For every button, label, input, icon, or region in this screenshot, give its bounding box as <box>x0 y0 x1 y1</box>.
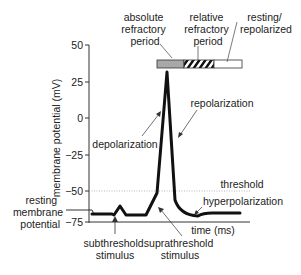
suprathreshold-pointer <box>161 210 182 236</box>
depolarization-label: depolarization <box>92 138 158 150</box>
resting-membrane-potential-label: resting membrane potential <box>13 194 66 230</box>
resting-repolarized-label: resting/ repolarized <box>240 11 292 35</box>
y-tick-minus75: −75 <box>65 216 83 228</box>
absolute-refractory-pointer <box>160 44 172 58</box>
depolarization-pointer <box>142 114 159 136</box>
y-tick-25: 25 <box>71 76 83 88</box>
y-axis: 50 25 0 −25 −50 −75 <box>65 39 89 228</box>
absolute-refractory-segment <box>157 60 184 68</box>
repolarization-pointer <box>180 110 197 135</box>
action-potential-diagram: absolute refractory period relative refr… <box>0 0 301 275</box>
y-tick-0: 0 <box>77 112 83 124</box>
y-tick-minus50: −50 <box>65 185 83 197</box>
relative-refractory-segment <box>184 60 214 68</box>
repolarization-label: repolarization <box>190 97 253 109</box>
y-tick-minus25: −25 <box>65 149 83 161</box>
threshold-label: threshold <box>220 178 263 190</box>
subthreshold-stimulus-label: subthreshold stimulus <box>83 237 146 261</box>
refractory-period-bar <box>157 60 242 68</box>
absolute-refractory-label: absolute refractory period <box>121 11 168 47</box>
x-axis-label: time (ms) <box>191 224 235 236</box>
y-axis-label: membrane potential (mV) <box>50 79 62 197</box>
y-tick-50: 50 <box>71 39 83 51</box>
hyperpolarization-label: hyperpolarization <box>203 195 283 207</box>
suprathreshold-stimulus-label: suprathreshold stimulus <box>144 237 216 261</box>
relative-refractory-label: relative refractory period <box>184 11 231 47</box>
depolarization-arrowhead <box>156 111 161 117</box>
resting-repolarized-segment <box>214 60 242 68</box>
subthreshold-arrowhead <box>112 216 118 222</box>
repolarization-arrowhead <box>178 132 183 138</box>
